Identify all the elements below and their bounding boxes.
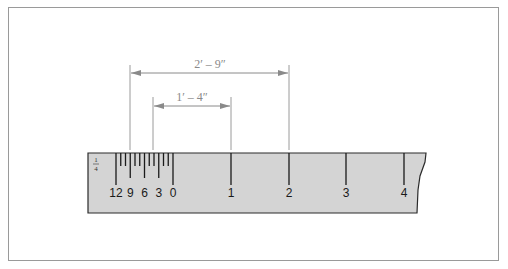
svg-text:4: 4 [94, 165, 98, 173]
dimension-outer: 2′ – 9″ [131, 57, 288, 73]
inch-label-0: 0 [170, 186, 177, 200]
dimension-inner: 1′ – 4″ [154, 90, 230, 106]
extension-lines [130, 65, 289, 150]
dimension-label-outer: 2′ – 9″ [194, 57, 226, 71]
foot-label-1: 1 [228, 186, 235, 200]
scale-diagram: 2′ – 9″ 1′ – 4″ 1 4 12 9 6 3 0 [0, 0, 508, 269]
dimension-label-inner: 1′ – 4″ [176, 90, 208, 104]
foot-label-2: 2 [286, 186, 293, 200]
inch-label-9: 9 [127, 186, 134, 200]
scale-ruler-body [88, 153, 426, 213]
svg-text:1: 1 [94, 156, 98, 164]
foot-label-4: 4 [401, 186, 408, 200]
inch-label-12: 12 [109, 186, 123, 200]
foot-label-3: 3 [343, 186, 350, 200]
inch-label-6: 6 [141, 186, 148, 200]
inch-label-3: 3 [155, 186, 162, 200]
